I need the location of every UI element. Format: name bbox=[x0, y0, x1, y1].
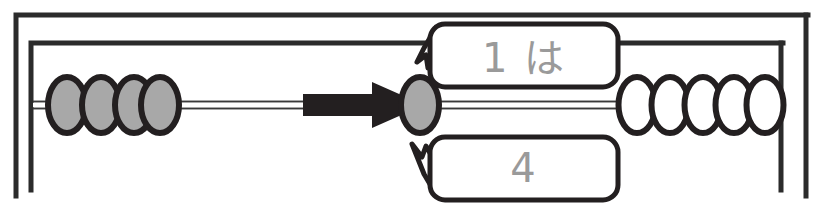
bead-filled[interactable] bbox=[141, 77, 179, 133]
left-bead-group bbox=[48, 77, 179, 133]
abacus-diagram-figure: 1 は 4 bbox=[0, 0, 818, 218]
target-bead[interactable] bbox=[401, 77, 439, 133]
diagram-canvas bbox=[0, 0, 818, 218]
right-bead-group bbox=[619, 77, 784, 133]
callout-bubble-top[interactable] bbox=[430, 24, 618, 87]
callout-bubble-bottom[interactable] bbox=[430, 137, 618, 200]
bead-empty[interactable] bbox=[747, 77, 784, 133]
